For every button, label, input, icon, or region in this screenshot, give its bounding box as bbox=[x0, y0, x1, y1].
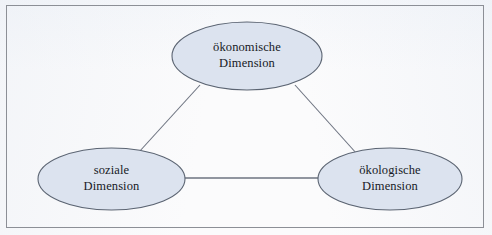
connector-oekonomische-oekologische bbox=[295, 85, 357, 154]
node-oekonomische-shape[interactable] bbox=[172, 22, 322, 90]
sustainability-triangle-diagram bbox=[0, 0, 492, 235]
node-group bbox=[38, 22, 462, 210]
node-soziale-shape[interactable] bbox=[38, 148, 185, 210]
connector-oekonomische-soziale bbox=[139, 85, 200, 152]
figure-canvas: ökonomische Dimension soziale Dimension … bbox=[0, 0, 492, 235]
node-oekologische-shape[interactable] bbox=[318, 148, 462, 210]
